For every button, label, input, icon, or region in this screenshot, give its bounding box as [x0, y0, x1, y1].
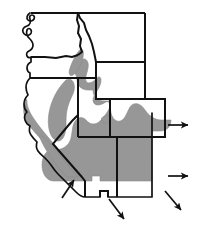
shaded-distribution-range-group — [24, 49, 171, 181]
border-washington-oregon — [31, 55, 78, 58]
border-wyoming — [96, 62, 145, 99]
arrow-south-icon — [109, 199, 124, 219]
shaded-range-outlier-utah — [101, 116, 109, 124]
border-newmexico-bootheel — [100, 191, 108, 197]
arrow-southeast-icon — [165, 191, 181, 210]
distribution-map-figure: Outline map of the western United States… — [0, 0, 200, 231]
shaded-range-sierra-lobe — [48, 79, 74, 141]
map-canvas — [0, 0, 200, 231]
